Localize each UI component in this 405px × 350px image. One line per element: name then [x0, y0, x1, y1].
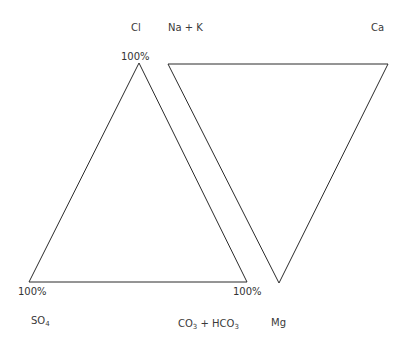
label-co3-hco3: CO3 + HCO3 — [178, 318, 239, 331]
label-mg: Mg — [271, 317, 286, 328]
hco3-subscript: 3 — [234, 323, 238, 331]
pct-apex: 100% — [121, 51, 150, 62]
so4-text: SO — [31, 315, 45, 326]
diagram-canvas — [0, 0, 405, 350]
co3-text: CO — [178, 318, 193, 329]
label-cl: Cl — [131, 22, 141, 33]
pct-bottom-right: 100% — [233, 286, 262, 297]
label-so4: SO4 — [31, 315, 50, 328]
label-na-k: Na + K — [168, 22, 203, 33]
anion-triangle — [29, 63, 247, 282]
hco3-text: + HCO — [197, 318, 234, 329]
so4-subscript: 4 — [45, 320, 49, 328]
label-ca: Ca — [371, 22, 384, 33]
pct-bottom-left: 100% — [18, 286, 47, 297]
cation-triangle — [168, 64, 388, 283]
